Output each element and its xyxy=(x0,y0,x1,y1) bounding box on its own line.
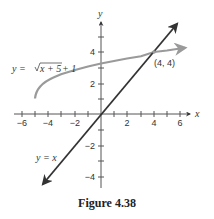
identity-line xyxy=(43,24,177,184)
y-tick-label: 2 xyxy=(90,79,95,89)
intersection-label: (4, 4) xyxy=(154,58,175,68)
x-tick-label: 6 xyxy=(177,118,182,128)
x-tick-label: −6 xyxy=(17,118,27,128)
svg-text:y =: y = xyxy=(11,63,26,74)
svg-text:x + 5: x + 5 xyxy=(39,63,61,74)
x-axis-label: x xyxy=(194,108,200,119)
figure-caption: Figure 4.38 xyxy=(78,196,136,210)
y-tick-label: −2 xyxy=(85,141,95,151)
line-label: y = x xyxy=(35,152,57,163)
figure-4-38: −6 −4 −2 2 4 6 x 4 2 −2 −4 y (4, 4) xyxy=(0,0,214,219)
x-axis: −6 −4 −2 2 4 6 x xyxy=(14,108,200,128)
x-tick-label: −4 xyxy=(43,118,53,128)
x-tick-label: 4 xyxy=(151,118,156,128)
intersection-point xyxy=(152,50,156,54)
x-tick-label: −2 xyxy=(70,118,80,128)
svg-text:+ 1: + 1 xyxy=(62,63,76,74)
y-tick-label: 4 xyxy=(90,47,95,57)
curve-label: y = x + 5 + 1 xyxy=(11,63,76,74)
y-tick-label: −4 xyxy=(85,172,95,182)
y-axis-label: y xyxy=(97,8,103,19)
x-tick-label: 2 xyxy=(124,118,129,128)
y-axis: 4 2 −2 −4 y xyxy=(85,8,104,188)
